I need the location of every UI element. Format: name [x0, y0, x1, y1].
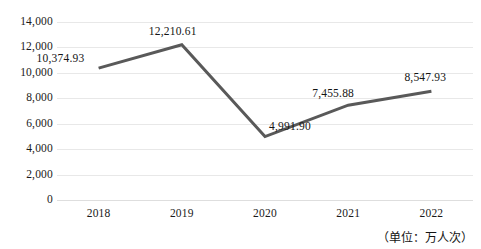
y-axis-tick-label: 8,000 [1, 92, 53, 104]
data-point-label: 8,547.93 [404, 71, 446, 83]
y-axis-tick-label: 6,000 [1, 118, 53, 130]
data-point-label: 7,455.88 [312, 87, 354, 99]
data-point-label: 4,991.90 [269, 120, 311, 132]
gridline [57, 200, 473, 201]
x-axis-tick-label: 2022 [396, 206, 466, 220]
data-point-label: 10,374.93 [37, 52, 85, 64]
unit-annotation: （单位：万人次） [377, 231, 473, 245]
data-point-label: 12,210.61 [149, 25, 197, 37]
x-axis: 20182019202020212022 [57, 206, 473, 224]
y-axis-tick-label: 14,000 [1, 16, 53, 28]
line-chart: 02,0004,0006,0008,00010,00012,00014,000 … [0, 0, 481, 249]
y-axis-tick-label: 10,000 [1, 67, 53, 79]
x-axis-tick-label: 2019 [147, 206, 217, 220]
plot-area [57, 22, 473, 200]
x-axis-tick-label: 2021 [313, 206, 383, 220]
y-axis: 02,0004,0006,0008,00010,00012,00014,000 [0, 22, 53, 200]
data-series-polyline [99, 45, 432, 137]
series-line [57, 22, 473, 200]
y-axis-tick-label: 2,000 [1, 169, 53, 181]
x-axis-tick-label: 2020 [230, 206, 300, 220]
y-axis-tick-label: 4,000 [1, 143, 53, 155]
y-axis-tick-label: 0 [1, 194, 53, 206]
x-axis-tick-label: 2018 [64, 206, 134, 220]
